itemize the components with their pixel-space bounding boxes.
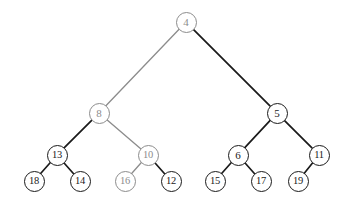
tree-node-label: 14 xyxy=(75,175,85,186)
tree-edge xyxy=(155,162,165,173)
tree-node[interactable]: 6 xyxy=(228,145,249,166)
tree-node-label: 13 xyxy=(52,149,62,160)
tree-node-label: 16 xyxy=(120,175,130,186)
tree-node-label: 18 xyxy=(29,175,39,186)
tree-node[interactable]: 13 xyxy=(47,145,68,166)
tree-node-label: 5 xyxy=(274,107,279,118)
tree-node-label: 19 xyxy=(293,175,303,186)
tree-node-label: 6 xyxy=(235,149,240,160)
tree-node[interactable]: 4 xyxy=(176,12,197,33)
tree-node[interactable]: 15 xyxy=(205,171,226,192)
tree-node-label: 8 xyxy=(96,107,101,118)
tree-node-label: 11 xyxy=(314,149,324,160)
tree-node-label: 12 xyxy=(166,175,176,186)
tree-edge xyxy=(284,120,312,148)
tree-edge xyxy=(107,120,141,149)
tree-edge xyxy=(304,163,312,173)
tree-node[interactable]: 11 xyxy=(309,145,330,166)
tree-edge xyxy=(222,162,232,173)
tree-edge xyxy=(193,29,270,106)
binary-tree-diagram: 485131061118141612151719 xyxy=(0,0,349,208)
tree-node[interactable]: 19 xyxy=(288,171,309,192)
tree-edge xyxy=(41,162,51,173)
tree-edge xyxy=(245,120,270,147)
tree-edge xyxy=(64,120,92,148)
tree-node[interactable]: 18 xyxy=(24,171,45,192)
tree-node[interactable]: 16 xyxy=(115,171,136,192)
tree-node[interactable]: 5 xyxy=(267,103,288,124)
tree-node[interactable]: 12 xyxy=(161,171,182,192)
tree-node-label: 17 xyxy=(256,175,266,186)
tree-edge xyxy=(64,162,74,173)
tree-node[interactable]: 14 xyxy=(70,171,91,192)
tree-node[interactable]: 10 xyxy=(138,145,159,166)
tree-node[interactable]: 8 xyxy=(89,103,110,124)
tree-edge xyxy=(132,162,142,173)
tree-node-label: 15 xyxy=(210,175,220,186)
tree-edge xyxy=(106,29,179,106)
tree-edge xyxy=(245,162,255,173)
tree-node-label: 4 xyxy=(183,16,188,27)
tree-node-label: 10 xyxy=(143,149,153,160)
tree-node[interactable]: 17 xyxy=(251,171,272,192)
